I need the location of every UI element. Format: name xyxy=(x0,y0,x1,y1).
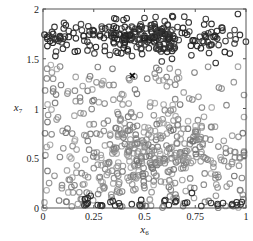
x-tick-label: 0.25 xyxy=(85,211,103,222)
data-point xyxy=(129,201,135,207)
data-point xyxy=(78,21,84,27)
data-point xyxy=(222,49,228,55)
data-point xyxy=(94,131,100,137)
data-point xyxy=(159,59,165,65)
data-point xyxy=(92,51,98,57)
data-point xyxy=(91,165,97,171)
data-point xyxy=(77,190,83,196)
data-point xyxy=(189,53,195,59)
data-point xyxy=(152,71,158,77)
x-tick-label: 0.5 xyxy=(138,211,151,222)
data-point xyxy=(111,97,117,103)
data-point xyxy=(73,74,79,80)
data-point xyxy=(221,138,227,144)
data-point xyxy=(73,36,79,42)
data-point xyxy=(206,50,212,56)
data-point xyxy=(96,99,102,105)
scatter-chart: 00.250.50.751 00.511.52 x6 x7 xyxy=(0,0,253,241)
data-point xyxy=(61,146,67,152)
data-point xyxy=(182,14,188,20)
data-point xyxy=(101,128,107,134)
data-point xyxy=(42,200,48,206)
data-point xyxy=(147,104,153,110)
data-point xyxy=(50,76,56,82)
data-point xyxy=(149,189,155,195)
data-point xyxy=(239,175,245,181)
x-tick-label: 1 xyxy=(244,211,249,222)
data-point xyxy=(175,24,181,30)
data-point xyxy=(167,66,173,72)
data-point xyxy=(176,37,182,43)
data-point xyxy=(45,112,51,118)
data-point xyxy=(162,107,168,113)
data-point xyxy=(186,20,192,26)
data-point xyxy=(93,44,99,50)
data-point xyxy=(142,15,148,21)
data-point xyxy=(129,182,135,188)
data-point xyxy=(232,173,238,179)
data-point xyxy=(45,168,51,174)
data-point xyxy=(182,141,188,147)
data-point xyxy=(203,16,209,22)
data-point xyxy=(91,154,97,160)
data-point xyxy=(44,66,50,72)
data-point xyxy=(213,60,219,66)
data-point xyxy=(195,117,201,123)
data-point xyxy=(79,28,85,34)
data-point xyxy=(119,51,125,57)
y-tick-labels: 00.511.52 xyxy=(27,4,40,214)
data-point xyxy=(126,101,132,107)
data-point xyxy=(185,118,191,124)
data-point xyxy=(223,38,229,44)
data-point xyxy=(205,64,211,70)
data-point xyxy=(110,66,116,72)
data-point xyxy=(169,56,175,62)
data-point xyxy=(129,53,135,59)
data-point xyxy=(173,82,179,88)
data-point xyxy=(227,33,233,39)
data-point xyxy=(72,88,78,94)
data-point xyxy=(137,112,143,118)
data-point xyxy=(94,80,100,86)
data-point xyxy=(189,190,195,196)
data-point xyxy=(69,131,75,137)
y-axis-label: x7 xyxy=(13,101,23,115)
data-points xyxy=(42,11,249,211)
data-point xyxy=(58,82,64,88)
y-tick-label: 0 xyxy=(34,203,39,214)
data-point xyxy=(175,69,181,75)
data-point xyxy=(74,170,80,176)
data-point xyxy=(82,132,88,138)
data-point xyxy=(44,76,50,82)
data-point xyxy=(49,132,55,138)
data-point xyxy=(49,70,55,76)
data-point xyxy=(201,22,207,28)
x-tick-labels: 00.250.50.751 xyxy=(41,211,249,222)
y-tick-label: 1.5 xyxy=(27,54,40,65)
data-point xyxy=(72,113,78,119)
data-point xyxy=(235,64,241,70)
data-point xyxy=(60,46,66,52)
data-point xyxy=(161,102,167,108)
data-point xyxy=(177,102,183,108)
data-point xyxy=(95,64,101,70)
data-point xyxy=(90,98,96,104)
data-point xyxy=(214,28,220,34)
data-point xyxy=(49,107,55,113)
data-point xyxy=(164,74,170,80)
data-point xyxy=(224,102,230,108)
data-point xyxy=(216,144,222,150)
data-point xyxy=(110,181,116,187)
y-tick-label: 2 xyxy=(34,4,39,15)
data-point xyxy=(64,168,70,174)
data-point xyxy=(107,52,113,58)
data-point xyxy=(45,102,51,108)
data-point xyxy=(80,83,86,89)
data-point xyxy=(199,105,205,111)
data-point xyxy=(74,147,80,153)
x-tick-label: 0.75 xyxy=(187,211,205,222)
data-point xyxy=(98,132,104,138)
data-point xyxy=(44,188,50,194)
data-point xyxy=(52,100,58,106)
data-point xyxy=(213,193,219,199)
